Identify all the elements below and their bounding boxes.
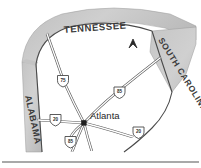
shield-label-i-20-east: 20 [136,129,142,134]
shield-i-20-east: 20 [133,127,144,139]
shield-i-75: 75 [58,76,69,88]
map-figure: Atlanta 75 85 20 20 85 [0,0,201,168]
shield-i-85-north: 85 [114,87,125,99]
shield-label-i-20-west: 20 [53,117,59,122]
map-canvas: Atlanta 75 85 20 20 85 [0,0,201,168]
road-network [38,31,160,158]
city-marker-atlanta [81,120,86,125]
city-label-atlanta: Atlanta [90,110,120,121]
shield-i-20-west: 20 [50,115,61,127]
shield-label-i-75: 75 [60,78,66,83]
shield-label-i-85-north: 85 [117,89,123,94]
border-coast [124,92,172,152]
shield-label-i-85-south: 85 [68,139,74,144]
road-i-75-south [84,123,94,158]
shield-i-85-south: 85 [65,137,76,149]
north-arrow-icon [129,39,137,48]
